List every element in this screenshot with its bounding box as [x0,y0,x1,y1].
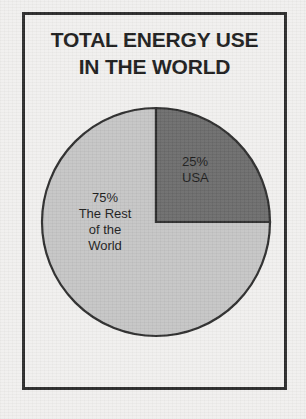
pie-label-rest-name-line-1: The Rest [62,206,148,222]
pie-label-usa: 25% USA [182,154,209,186]
pie-label-rest-name-line-3: World [62,238,148,254]
pie-label-rest-name-line-2: of the [62,222,148,238]
pie-label-rest-of-world: 75% The Rest of the World [62,190,148,254]
pie-label-usa-name: USA [182,170,209,186]
pie-label-rest-percent: 75% [62,190,148,206]
pie-label-usa-percent: 25% [182,154,209,170]
pie-slice-usa[interactable] [156,108,270,222]
pie-chart [0,0,306,419]
